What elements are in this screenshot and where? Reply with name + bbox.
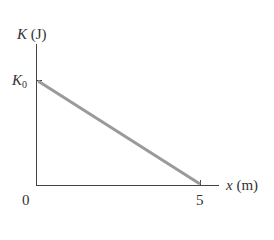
y-tick-label-k0: K0: [12, 73, 27, 90]
y-tick-subscript: 0: [22, 79, 27, 90]
kinetic-energy-line: [38, 81, 200, 184]
y-axis-unit: (J): [31, 26, 47, 42]
x-axis-label: x (m): [226, 178, 258, 193]
y-tick-k: K: [12, 72, 22, 88]
y-axis-var: K: [17, 26, 27, 42]
y-axis-label: K (J): [17, 27, 47, 42]
origin-label: 0: [22, 193, 30, 208]
x-tick-label-5: 5: [196, 193, 204, 208]
x-axis-unit: (m): [236, 177, 258, 193]
x-axis-var: x: [226, 177, 233, 193]
